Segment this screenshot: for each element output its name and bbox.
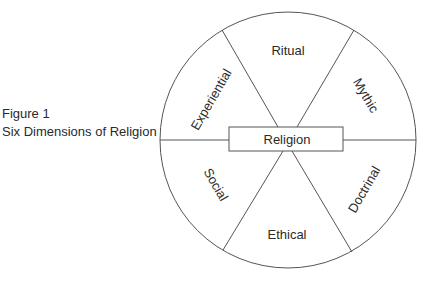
religion-dimensions-diagram: Religion Ritual Ethical Experiential Myt…	[0, 0, 427, 286]
segment-mythic: Mythic	[350, 75, 382, 115]
segment-doctrinal: Doctrinal	[345, 163, 384, 215]
segment-social: Social	[201, 165, 232, 203]
divider-upper-right	[297, 30, 354, 127]
segment-experiential: Experiential	[188, 66, 235, 132]
segment-ethical: Ethical	[267, 227, 306, 242]
center-label: Religion	[264, 132, 311, 147]
segment-ritual: Ritual	[271, 43, 304, 58]
